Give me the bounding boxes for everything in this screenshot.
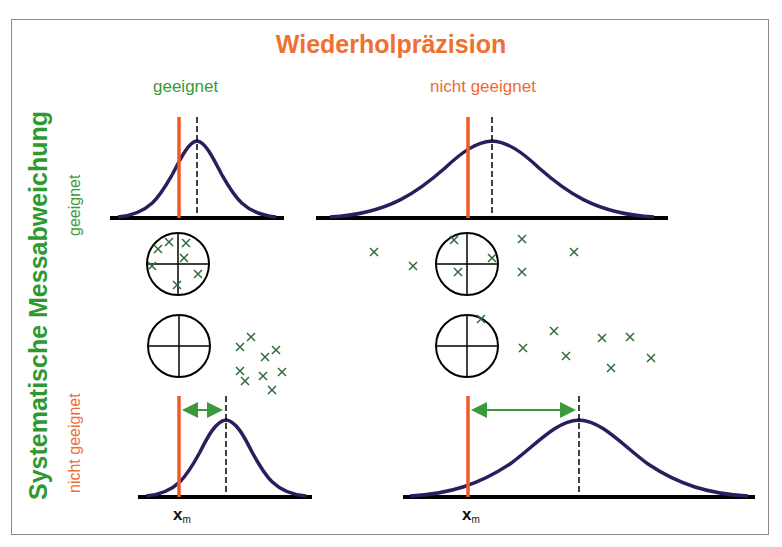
target-bottom-right [436, 315, 655, 377]
panel-top-right-distribution [316, 117, 668, 218]
diagram-canvas [0, 0, 782, 547]
target-bottom-left [148, 315, 286, 394]
panel-bottom-left-distribution [138, 396, 312, 497]
reference-value-label-left: xm [173, 505, 191, 525]
reference-value-label-right: xm [462, 505, 480, 525]
panel-bottom-right-distribution [403, 396, 755, 497]
target-top-left [147, 233, 209, 295]
panel-top-left-distribution [110, 117, 284, 218]
target-top-right [370, 233, 578, 295]
